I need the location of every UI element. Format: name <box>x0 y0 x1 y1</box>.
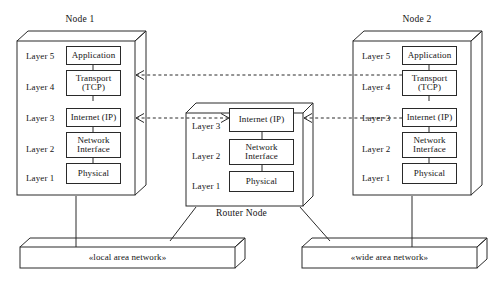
node2-layer4-protocol-text: Transport (TCP) <box>412 74 448 93</box>
node1-layer2-label: Layer 2 <box>26 144 54 154</box>
node1-layer5-protocol-text: Application <box>72 51 116 61</box>
node2-layer1-protocol-box: Physical <box>402 163 457 184</box>
node2-layer2-protocol-box: Network Interface <box>402 132 457 158</box>
lan-network-label: «local area network» <box>20 252 235 262</box>
node1-layer1-protocol-text: Physical <box>78 169 109 179</box>
node1-layer2-protocol-text: Network Interface <box>77 136 110 155</box>
router-layer3-label: Layer 3 <box>192 121 220 131</box>
router-layer1-label: Layer 1 <box>192 181 220 191</box>
node1-layer4-protocol-box: Transport (TCP) <box>66 70 121 96</box>
node1-layer1-protocol-box: Physical <box>66 163 121 184</box>
node2-layer4-label: Layer 4 <box>362 82 390 92</box>
node1-layer3-label: Layer 3 <box>26 113 54 123</box>
node1-layer2-protocol-box: Network Interface <box>66 132 121 158</box>
node2-layer5-protocol-box: Application <box>402 46 457 65</box>
node2-layer1-label: Layer 1 <box>362 173 390 183</box>
node2-layer2-protocol-text: Network Interface <box>413 136 446 155</box>
node2-layer1-protocol-text: Physical <box>414 169 445 179</box>
wan-network-label: «wide area network» <box>302 252 477 262</box>
node2-layer3-label: Layer 3 <box>362 113 390 123</box>
router-layer2-protocol-text: Network Interface <box>245 143 278 162</box>
node1-layer4-protocol-text: Transport (TCP) <box>76 74 112 93</box>
node2-layer3-protocol-box: Internet (IP) <box>402 108 457 127</box>
node1-layer4-label: Layer 4 <box>26 82 54 92</box>
node1-layer3-protocol-text: Internet (IP) <box>71 113 117 123</box>
router-layer2-protocol-box: Network Interface <box>229 139 294 165</box>
node2-layer5-label: Layer 5 <box>362 51 390 61</box>
node1-layer1-label: Layer 1 <box>26 173 54 183</box>
router-layer1-protocol-text: Physical <box>246 177 277 187</box>
node2-layer3-protocol-text: Internet (IP) <box>407 113 453 123</box>
node1-layer3-protocol-box: Internet (IP) <box>66 108 121 127</box>
router-layer3-protocol-box: Internet (IP) <box>229 108 294 132</box>
node2-layer5-protocol-text: Application <box>408 51 452 61</box>
node1-layer5-label: Layer 5 <box>26 51 54 61</box>
node1-title: Node 1 <box>45 14 115 24</box>
router-node-title: Router Node <box>216 208 267 218</box>
node2-title: Node 2 <box>382 14 452 24</box>
node2-layer4-protocol-box: Transport (TCP) <box>402 70 457 96</box>
node2-layer2-label: Layer 2 <box>362 144 390 154</box>
router-layer3-protocol-text: Internet (IP) <box>239 115 285 125</box>
node1-layer5-protocol-box: Application <box>66 46 121 65</box>
router-layer1-protocol-box: Physical <box>229 171 294 192</box>
diagram-canvas: Node 1 Layer 5 Application Layer 4 Trans… <box>0 0 500 286</box>
router-layer2-label: Layer 2 <box>192 151 220 161</box>
